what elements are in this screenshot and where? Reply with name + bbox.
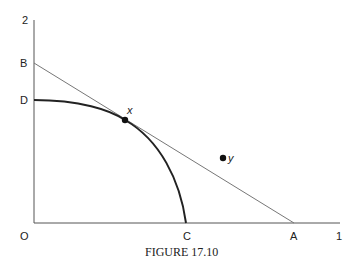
figure-diagram: 2 B D O C A 1 x y FIGURE 17.10 [0, 0, 359, 269]
point-y [220, 155, 226, 161]
label-2: 2 [22, 14, 28, 26]
label-point-y: y [227, 152, 235, 164]
point-x [122, 117, 128, 123]
label-O: O [20, 230, 29, 242]
label-point-x: x [126, 104, 133, 116]
budget-line-BA [34, 63, 294, 223]
label-1: 1 [336, 230, 342, 242]
label-D: D [20, 94, 28, 106]
label-C: C [183, 230, 191, 242]
frontier-curve-DC [34, 100, 186, 223]
label-A: A [290, 230, 298, 242]
label-B: B [20, 57, 27, 69]
figure-caption: FIGURE 17.10 [145, 245, 218, 259]
